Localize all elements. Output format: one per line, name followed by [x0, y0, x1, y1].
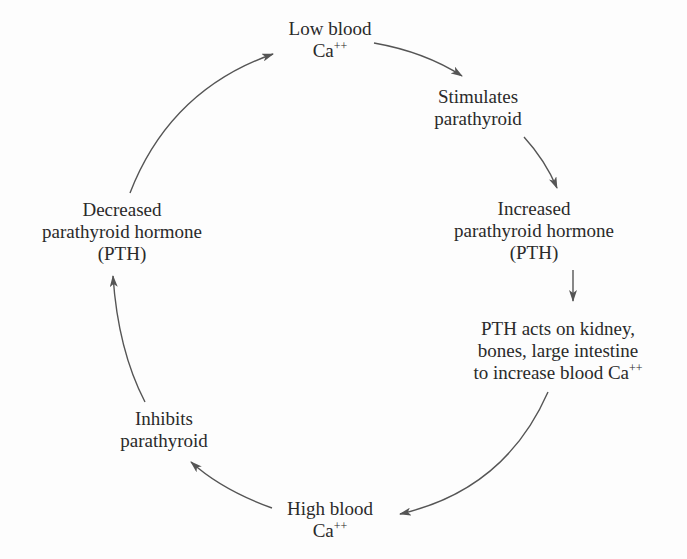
node-text: Stimulates — [434, 86, 522, 108]
node-text: parathyroid — [120, 430, 208, 452]
arrow-decreased-to-low — [130, 54, 273, 193]
superscript: ++ — [334, 39, 348, 53]
node-text: Ca++ — [287, 520, 373, 542]
arrow-pth-acts-to-high — [400, 392, 548, 514]
node-text: Inhibits — [120, 408, 208, 430]
arrow-low-to-stimulates — [374, 43, 462, 76]
calcium-regulation-cycle-diagram: Low blood Ca++ Stimulates parathyroid In… — [0, 0, 687, 559]
node-text: bones, large intestine — [473, 340, 642, 362]
node-inhibits-parathyroid: Inhibits parathyroid — [120, 408, 208, 452]
node-text: Ca++ — [289, 40, 372, 62]
node-text: (PTH) — [42, 243, 202, 265]
node-text: High blood — [287, 498, 373, 520]
node-text: parathyroid — [434, 108, 522, 130]
node-increased-pth: Increased parathyroid hormone (PTH) — [454, 198, 614, 264]
node-low-blood-ca: Low blood Ca++ — [289, 18, 372, 62]
node-high-blood-ca: High blood Ca++ — [287, 498, 373, 542]
node-text: Decreased — [42, 199, 202, 221]
cycle-arrows — [0, 0, 687, 559]
node-text: to increase blood Ca++ — [473, 362, 642, 384]
arrow-high-to-inhibits — [191, 462, 272, 508]
node-text: parathyroid hormone — [42, 221, 202, 243]
node-stimulates-parathyroid: Stimulates parathyroid — [434, 86, 522, 130]
node-decreased-pth: Decreased parathyroid hormone (PTH) — [42, 199, 202, 265]
superscript: ++ — [629, 361, 643, 375]
node-text: (PTH) — [454, 242, 614, 264]
node-pth-acts: PTH acts on kidney, bones, large intesti… — [473, 318, 642, 384]
node-text: Increased — [454, 198, 614, 220]
arrow-stimulates-to-increased — [524, 137, 557, 188]
superscript: ++ — [334, 519, 348, 533]
node-text: PTH acts on kidney, — [473, 318, 642, 340]
arrow-inhibits-to-decreased — [113, 276, 145, 402]
node-text: Low blood — [289, 18, 372, 40]
node-text: parathyroid hormone — [454, 220, 614, 242]
